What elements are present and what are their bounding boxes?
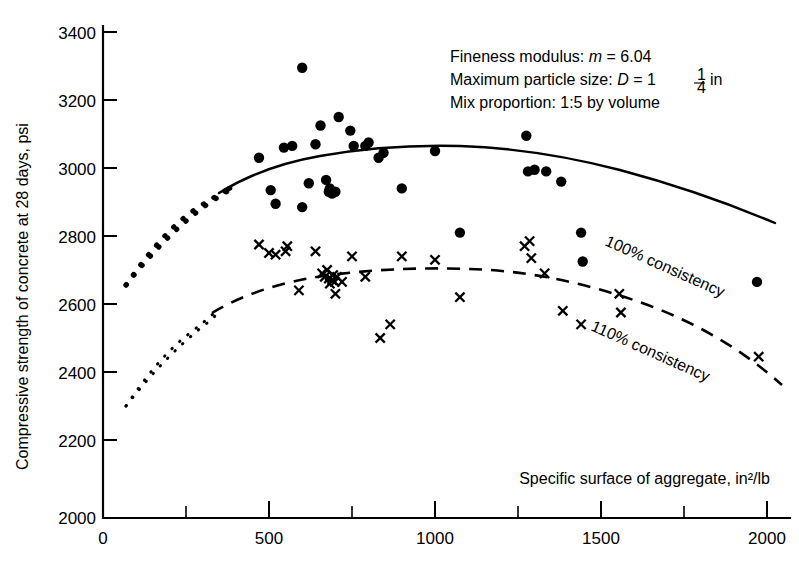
x-axis-title: Specific surface of aggregate, in²/lb	[519, 470, 770, 487]
y-tick-label: 3000	[58, 160, 96, 179]
x-tick-label: 2000	[748, 529, 786, 548]
data-point-circle	[541, 166, 551, 176]
lower-curve-label: 110% consistency	[589, 317, 713, 385]
data-point-circle	[254, 153, 264, 163]
annotation-unit: in	[710, 71, 722, 88]
data-point-cross	[337, 277, 346, 286]
annotation-line-3: Mix proportion: 1:5 by volume	[450, 94, 660, 111]
y-axis-ticks	[103, 32, 117, 440]
data-point-circle	[378, 148, 388, 158]
data-point-circle	[556, 176, 566, 186]
data-point-cross	[754, 352, 763, 361]
data-point-circle	[266, 185, 276, 195]
x-tick-label: 1000	[416, 529, 454, 548]
data-point-circle	[334, 112, 344, 122]
data-point-cross	[386, 320, 395, 329]
y-axis-tick-labels: 3400 3200 3000 2800 2600 2400 2200 2000	[58, 24, 96, 528]
y-tick-label: 2000	[58, 509, 96, 528]
upper-curve-dotted-extension	[126, 190, 226, 285]
data-point-cross	[430, 255, 439, 264]
data-point-cross	[577, 320, 586, 329]
y-tick-label: 2600	[58, 296, 96, 315]
data-point-cross	[311, 247, 320, 256]
lower-curve-dotted-extension	[126, 313, 213, 406]
data-point-circle	[270, 199, 280, 209]
data-point-cross	[527, 254, 536, 263]
chart-page: 3400 3200 3000 2800 2600 2400 2200 2000 …	[0, 0, 799, 566]
data-point-circle	[330, 187, 340, 197]
data-point-cross	[254, 240, 263, 249]
data-point-circle	[752, 277, 762, 287]
data-point-cross	[294, 286, 303, 295]
scatter-plot: 3400 3200 3000 2800 2600 2400 2200 2000 …	[0, 0, 799, 566]
data-point-cross	[525, 237, 534, 246]
data-point-cross	[347, 252, 356, 261]
data-point-cross	[397, 252, 406, 261]
y-tick-label: 2200	[58, 432, 96, 451]
y-tick-label: 3200	[58, 92, 96, 111]
data-point-circle	[297, 202, 307, 212]
data-point-circle	[304, 178, 314, 188]
data-point-circle	[310, 139, 320, 149]
data-point-circle	[315, 120, 325, 130]
x-axis-ticks	[186, 501, 767, 518]
y-axis-title: Compressive strength of concrete at 28 d…	[14, 123, 31, 470]
data-point-circle	[297, 62, 307, 72]
data-point-circle	[397, 183, 407, 193]
data-point-circle	[521, 131, 531, 141]
data-point-cross	[455, 293, 464, 302]
data-point-cross	[361, 272, 370, 281]
y-tick-label: 2800	[58, 228, 96, 247]
data-point-circle	[576, 227, 586, 237]
data-point-cross	[616, 308, 625, 317]
y-tick-label: 3400	[58, 24, 96, 43]
data-point-circle	[363, 137, 373, 147]
x-axis-tick-labels: 0 500 1000 1500 2000	[98, 529, 786, 548]
data-point-cross	[331, 289, 340, 298]
data-point-circle	[529, 165, 539, 175]
data-point-circle	[455, 227, 465, 237]
annotation-line-1: Fineness modulus: m = 6.04	[450, 48, 652, 65]
annotation-block: Fineness modulus: m = 6.04 Maximum parti…	[450, 48, 722, 111]
data-point-circle	[578, 256, 588, 266]
x-tick-label: 500	[255, 529, 283, 548]
data-point-cross	[271, 250, 280, 259]
x-tick-label: 0	[98, 529, 107, 548]
annotation-fraction-denominator: 4	[697, 79, 706, 96]
upper-curve-dotted-extension-2	[126, 187, 233, 285]
data-point-circle	[349, 141, 359, 151]
annotation-line-2: Maximum particle size: D = 1	[450, 71, 656, 88]
x-tick-label: 1500	[582, 529, 620, 548]
data-point-circle	[430, 146, 440, 156]
data-point-cross	[376, 333, 385, 342]
data-point-circle	[345, 125, 355, 135]
data-point-cross	[615, 289, 624, 298]
y-tick-label: 2400	[58, 364, 96, 383]
data-point-cross	[558, 306, 567, 315]
data-point-circle	[287, 141, 297, 151]
lower-curve-dotted-extension-2	[126, 313, 215, 406]
